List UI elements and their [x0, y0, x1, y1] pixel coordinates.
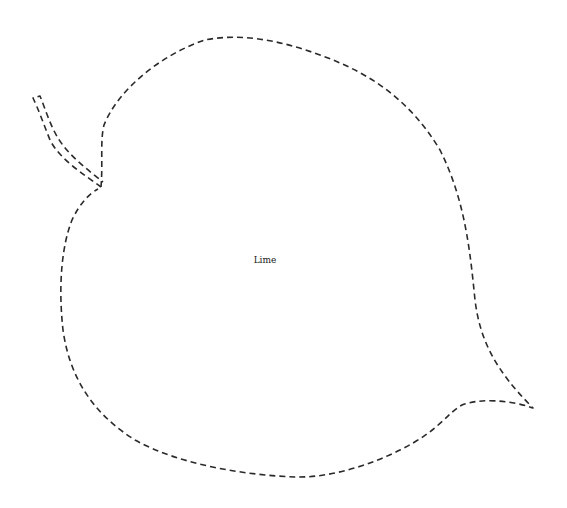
leaf-label: Lime — [240, 255, 290, 265]
leaf-stem-outline — [33, 96, 103, 187]
leaf-body-outline — [61, 37, 533, 477]
leaf-outline-drawing — [0, 0, 567, 508]
